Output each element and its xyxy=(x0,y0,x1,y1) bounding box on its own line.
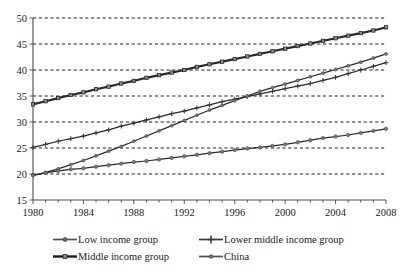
legend-label-low-income-group: Low income group xyxy=(78,234,158,245)
legend-marker-china xyxy=(198,251,224,262)
svg-text:15: 15 xyxy=(17,195,28,206)
legend-marker-lower-middle-income-group xyxy=(198,234,224,245)
legend-item-low-income-group[interactable]: Low income group xyxy=(52,234,198,245)
legend-label-china: China xyxy=(224,251,249,262)
svg-text:1996: 1996 xyxy=(224,207,245,218)
svg-text:1984: 1984 xyxy=(73,207,95,218)
data-series-group xyxy=(31,26,389,177)
line-chart: 1520253035404550 19801984198819921996200… xyxy=(0,0,403,277)
svg-text:50: 50 xyxy=(17,13,28,24)
chart-legend: Low income group Lower middle income gro… xyxy=(0,229,403,277)
legend-item-china[interactable]: China xyxy=(198,251,398,262)
svg-text:45: 45 xyxy=(17,39,28,50)
x-axis-tick-labels: 19801984198819921996200020042008 xyxy=(23,207,397,218)
legend-item-lower-middle-income-group[interactable]: Lower middle income group xyxy=(198,234,398,245)
svg-text:25: 25 xyxy=(17,143,28,154)
series-low-income-group xyxy=(31,127,387,177)
legend-label-lower-middle-income-group: Lower middle income group xyxy=(224,234,344,245)
legend-label-middle-income-group: Middle income group xyxy=(78,251,169,262)
plot-area: 1520253035404550 19801984198819921996200… xyxy=(0,0,403,232)
svg-text:2000: 2000 xyxy=(275,207,296,218)
legend-item-middle-income-group[interactable]: Middle income group xyxy=(52,251,198,262)
svg-text:1992: 1992 xyxy=(174,207,195,218)
svg-text:30: 30 xyxy=(17,117,28,128)
svg-text:1988: 1988 xyxy=(123,207,144,218)
svg-text:2008: 2008 xyxy=(376,207,397,218)
svg-text:2004: 2004 xyxy=(325,207,347,218)
gridlines xyxy=(33,18,386,174)
svg-text:40: 40 xyxy=(17,65,28,76)
legend-marker-middle-income-group xyxy=(52,251,78,262)
y-axis-tick-labels: 1520253035404550 xyxy=(17,13,28,206)
svg-text:35: 35 xyxy=(17,91,28,102)
chart-canvas: 1520253035404550 19801984198819921996200… xyxy=(0,0,403,232)
svg-text:1980: 1980 xyxy=(23,207,44,218)
legend-marker-low-income-group xyxy=(52,234,78,245)
series-china xyxy=(32,52,388,177)
series-middle-income-group xyxy=(31,26,387,106)
svg-text:20: 20 xyxy=(17,169,28,180)
